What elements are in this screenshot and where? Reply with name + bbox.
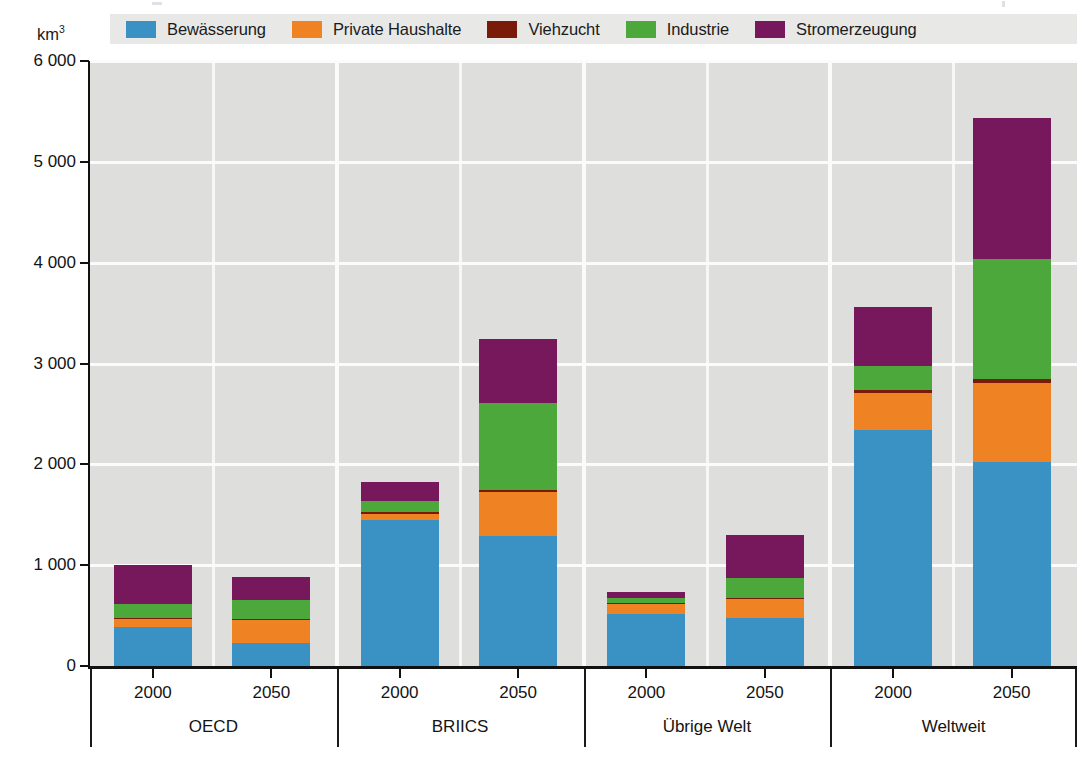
bar-segment-private-haushalte bbox=[232, 620, 310, 643]
year-label-oecd-2000: 2000 bbox=[134, 683, 172, 703]
year-label-übrige-welt-2050: 2050 bbox=[746, 683, 784, 703]
legend-swatch-electricity bbox=[755, 21, 785, 38]
group-divider-0 bbox=[90, 669, 92, 747]
group-divider-4 bbox=[1075, 669, 1077, 747]
bar-segment-industrie bbox=[854, 366, 932, 390]
bar-segment-bewässerung bbox=[479, 536, 557, 666]
y-tick-label-4000: 4 000 bbox=[0, 253, 76, 273]
x-tick-4 bbox=[645, 669, 647, 678]
bar-briics-2050[interactable] bbox=[479, 339, 557, 666]
chart-legend: BewässerungPrivate HaushalteViehzuchtInd… bbox=[110, 14, 1077, 44]
legend-label-irrigation: Bewässerung bbox=[167, 21, 266, 38]
minor-separator-3 bbox=[952, 61, 955, 666]
group-label-weltweit: Weltweit bbox=[922, 717, 986, 737]
bar-segment-bewässerung bbox=[726, 618, 804, 666]
legend-label-electricity: Stromerzeugung bbox=[796, 21, 917, 38]
group-separator-3 bbox=[828, 61, 832, 666]
bar-segment-stromerzeugung bbox=[479, 339, 557, 403]
year-label-briics-2050: 2050 bbox=[499, 683, 537, 703]
bar-segment-industrie bbox=[973, 259, 1051, 379]
bar-oecd-2000[interactable] bbox=[114, 565, 192, 666]
bar-segment-industrie bbox=[479, 403, 557, 490]
x-tick-2 bbox=[399, 669, 401, 678]
bar-segment-bewässerung bbox=[607, 614, 685, 666]
legend-swatch-livestock bbox=[487, 21, 517, 38]
bar-segment-private-haushalte bbox=[854, 393, 932, 430]
legend-item-electricity[interactable]: Stromerzeugung bbox=[755, 14, 917, 44]
y-tick-label-3000: 3 000 bbox=[0, 354, 76, 374]
bar-weltweit-2050[interactable] bbox=[973, 118, 1051, 666]
group-label-übrige-welt: Übrige Welt bbox=[663, 717, 752, 737]
y-tick-4000 bbox=[80, 262, 89, 264]
bar-segment-stromerzeugung bbox=[973, 118, 1051, 258]
legend-item-households[interactable]: Private Haushalte bbox=[292, 14, 462, 44]
y-tick-5000 bbox=[80, 161, 89, 163]
plot-area bbox=[90, 61, 1077, 666]
year-label-übrige-welt-2000: 2000 bbox=[627, 683, 665, 703]
y-tick-0 bbox=[80, 665, 89, 667]
scan-artifact bbox=[152, 2, 162, 5]
y-tick-3000 bbox=[80, 363, 89, 365]
group-divider-3 bbox=[830, 669, 832, 747]
x-axis-labels: 20002050200020502000205020002050OECDBRII… bbox=[88, 669, 1077, 747]
bar-segment-bewässerung bbox=[973, 462, 1051, 666]
x-tick-5 bbox=[764, 669, 766, 678]
y-tick-label-6000: 6 000 bbox=[0, 51, 76, 71]
bar-weltweit-2000[interactable] bbox=[854, 307, 932, 666]
group-label-oecd: OECD bbox=[189, 717, 238, 737]
y-tick-6000 bbox=[80, 60, 89, 62]
legend-label-households: Private Haushalte bbox=[333, 21, 462, 38]
group-divider-2 bbox=[584, 669, 586, 747]
bar-segment-bewässerung bbox=[854, 430, 932, 666]
bar-segment-industrie bbox=[114, 604, 192, 617]
legend-item-irrigation[interactable]: Bewässerung bbox=[126, 14, 266, 44]
x-tick-1 bbox=[270, 669, 272, 678]
year-label-weltweit-2050: 2050 bbox=[993, 683, 1031, 703]
x-tick-6 bbox=[892, 669, 894, 678]
legend-item-industry[interactable]: Industrie bbox=[626, 14, 729, 44]
y-tick-label-0: 0 bbox=[0, 656, 76, 676]
legend-item-livestock[interactable]: Viehzucht bbox=[487, 14, 599, 44]
minor-separator-0 bbox=[212, 61, 215, 666]
bar-segment-stromerzeugung bbox=[854, 307, 932, 365]
y-axis-unit-label: km3 bbox=[37, 23, 65, 44]
year-label-briics-2000: 2000 bbox=[381, 683, 419, 703]
group-label-briics: BRIICS bbox=[432, 717, 489, 737]
bar-segment-bewässerung bbox=[361, 520, 439, 666]
bar-segment-industrie bbox=[232, 600, 310, 618]
minor-separator-2 bbox=[706, 61, 709, 666]
x-tick-7 bbox=[1011, 669, 1013, 678]
bar-segment-industrie bbox=[361, 501, 439, 512]
group-divider-1 bbox=[337, 669, 339, 747]
bar-segment-stromerzeugung bbox=[726, 535, 804, 578]
bar-segment-private-haushalte bbox=[607, 604, 685, 613]
group-separator-1 bbox=[335, 61, 339, 666]
legend-swatch-irrigation bbox=[126, 21, 156, 38]
minor-separator-1 bbox=[459, 61, 462, 666]
year-label-oecd-2050: 2050 bbox=[252, 683, 290, 703]
bar-übrige-welt-2000[interactable] bbox=[607, 592, 685, 666]
legend-swatch-industry bbox=[626, 21, 656, 38]
year-label-weltweit-2000: 2000 bbox=[874, 683, 912, 703]
bar-oecd-2050[interactable] bbox=[232, 577, 310, 666]
bar-segment-stromerzeugung bbox=[361, 482, 439, 500]
group-separator-2 bbox=[582, 61, 586, 666]
bar-segment-private-haushalte bbox=[114, 619, 192, 627]
bar-segment-stromerzeugung bbox=[114, 565, 192, 604]
y-tick-2000 bbox=[80, 463, 89, 465]
y-tick-1000 bbox=[80, 564, 89, 566]
y-tick-label-2000: 2 000 bbox=[0, 454, 76, 474]
bar-segment-private-haushalte bbox=[479, 492, 557, 536]
bar-briics-2000[interactable] bbox=[361, 482, 439, 666]
y-tick-label-1000: 1 000 bbox=[0, 555, 76, 575]
bar-segment-private-haushalte bbox=[726, 599, 804, 617]
legend-label-livestock: Viehzucht bbox=[528, 21, 599, 38]
x-tick-3 bbox=[517, 669, 519, 678]
bar-segment-industrie bbox=[726, 578, 804, 598]
bar-segment-private-haushalte bbox=[973, 383, 1051, 463]
y-tick-label-5000: 5 000 bbox=[0, 152, 76, 172]
x-tick-0 bbox=[152, 669, 154, 678]
bar-segment-bewässerung bbox=[114, 627, 192, 666]
bar-übrige-welt-2050[interactable] bbox=[726, 535, 804, 666]
legend-swatch-households bbox=[292, 21, 322, 38]
